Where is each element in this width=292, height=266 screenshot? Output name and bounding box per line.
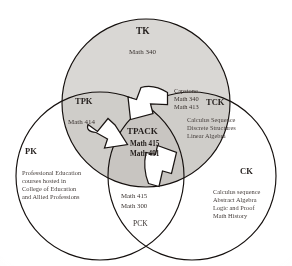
tpk-course-0: Math 414 bbox=[68, 118, 96, 126]
pk-desc-0: Professional Education bbox=[22, 169, 82, 176]
tpack-course-1: Math 491 bbox=[130, 150, 160, 158]
ck-desc-0: Calculus sequence bbox=[213, 188, 261, 195]
ck-desc-1: Abstract Algebra bbox=[213, 196, 257, 203]
pk-desc-2: College of Education bbox=[22, 185, 77, 192]
pck-label: PCK bbox=[133, 219, 148, 228]
tpk-label: TPK bbox=[75, 96, 93, 106]
tck-desc-2: Linear Algebra bbox=[187, 132, 226, 139]
tk-label: TK bbox=[136, 26, 150, 36]
pck-course-0: Math 415 bbox=[121, 192, 148, 199]
venn-svg: TK Math 340 TPK Math 414 TCK Capstone Ma… bbox=[0, 0, 292, 266]
tck-desc-0: Calculus Sequence bbox=[187, 116, 236, 123]
tck-label: TCK bbox=[206, 97, 225, 107]
pk-desc-3: and Allied Professions bbox=[22, 193, 80, 200]
tck-course-2: Math 413 bbox=[174, 103, 199, 110]
pk-label: PK bbox=[25, 146, 37, 156]
tck-course-0: Capstone bbox=[174, 87, 198, 94]
pck-course-1: Math 300 bbox=[121, 202, 148, 209]
tck-desc-1: Discrete Structures bbox=[187, 124, 236, 131]
tpack-venn-diagram: TK Math 340 TPK Math 414 TCK Capstone Ma… bbox=[0, 0, 292, 266]
pk-desc-1: courses hosted in bbox=[22, 177, 67, 184]
tk-course-0: Math 340 bbox=[129, 48, 157, 56]
tck-course-1: Math 340 bbox=[174, 95, 199, 102]
ck-desc-2: Logic and Proof bbox=[213, 204, 255, 211]
tpack-label: TPACK bbox=[127, 126, 158, 136]
ck-label: CK bbox=[240, 166, 253, 176]
tpack-course-0: Math 415 bbox=[130, 140, 160, 148]
ck-desc-3: Math History bbox=[213, 212, 248, 219]
